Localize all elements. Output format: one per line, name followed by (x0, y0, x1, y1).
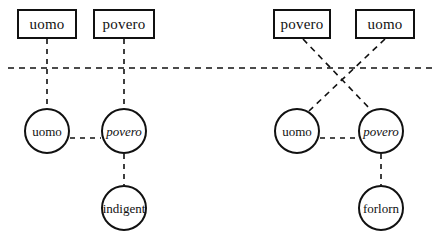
circle-forlorn-right-label: forlorn (363, 202, 399, 215)
circle-uomo-right-label: uomo (282, 125, 312, 138)
circle-indigent-left[interactable]: indigent (101, 185, 147, 231)
circle-indigent-left-label: indigent (103, 202, 146, 215)
circle-uomo-left-label: uomo (32, 125, 62, 138)
diagram-canvas: uomo povero uomo povero indigent povero … (0, 0, 444, 241)
circle-uomo-left[interactable]: uomo (24, 108, 70, 154)
box-uomo-left-label: uomo (30, 17, 65, 32)
connector-right-box-uomo-to-circle-uomo (309, 39, 385, 111)
circle-povero-right[interactable]: povero (358, 108, 404, 154)
circle-povero-left-label: povero (106, 125, 142, 138)
box-uomo-right[interactable]: uomo (355, 9, 415, 39)
circle-povero-right-label: povero (363, 125, 399, 138)
circle-forlorn-right[interactable]: forlorn (358, 185, 404, 231)
box-povero-right-label: povero (281, 17, 324, 32)
connector-right-box-povero-to-circle-povero (303, 39, 371, 110)
box-uomo-right-label: uomo (368, 17, 403, 32)
circle-uomo-right[interactable]: uomo (274, 108, 320, 154)
box-povero-left[interactable]: povero (93, 9, 155, 39)
box-uomo-left[interactable]: uomo (17, 9, 77, 39)
box-povero-left-label: povero (103, 17, 146, 32)
circle-povero-left[interactable]: povero (101, 108, 147, 154)
box-povero-right[interactable]: povero (273, 9, 331, 39)
